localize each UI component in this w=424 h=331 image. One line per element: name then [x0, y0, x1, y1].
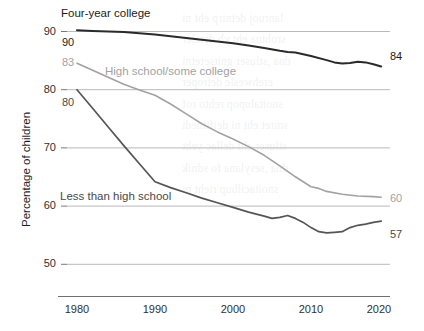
x-tick-label-2020: 2020	[355, 303, 403, 315]
y-tick-label-90: 90	[30, 25, 56, 37]
series-line-four-year-college	[77, 30, 381, 66]
value-label-hs-start: 83	[62, 56, 74, 68]
series-label-less-than-high-school: Less than high school	[60, 190, 171, 202]
chart-container: lanruoj detnirp eht ni srohtua eht yb de…	[0, 0, 424, 331]
chart-svg	[0, 0, 424, 331]
value-label-hs-end: 60	[390, 192, 402, 204]
series-line-high-school-some-college	[77, 63, 381, 197]
value-label-less-end: 57	[390, 228, 402, 240]
x-tick-label-1990: 1990	[131, 303, 179, 315]
y-axis-title: Percentage of children	[20, 112, 32, 227]
y-tick-label-50: 50	[30, 257, 56, 269]
y-tick-label-70: 70	[30, 141, 56, 153]
value-label-college-start: 90	[62, 36, 74, 48]
x-tick-label-2000: 2000	[209, 303, 257, 315]
x-tick-label-2010: 2010	[287, 303, 335, 315]
y-tick-label-60: 60	[30, 199, 56, 211]
value-label-college-end: 84	[390, 50, 402, 62]
series-label-four-year-college: Four-year college	[61, 7, 150, 19]
value-label-less-start: 80	[62, 96, 74, 108]
series-line-less-than-high-school	[77, 90, 381, 233]
y-tick-label-80: 80	[30, 83, 56, 95]
series-label-high-school-some-college: High school/some college	[105, 65, 236, 77]
line-chart-plot: 90 80 70 60 50 1980 1990 2000 2010 2020 …	[0, 0, 424, 331]
x-tick-label-1980: 1980	[53, 303, 101, 315]
